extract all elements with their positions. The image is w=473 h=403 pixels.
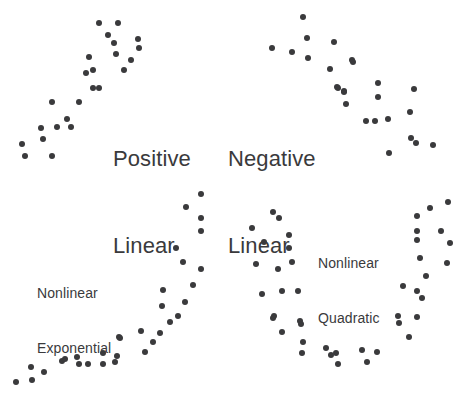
scatter-point bbox=[430, 142, 436, 148]
scatter-point bbox=[374, 349, 380, 355]
scatter-point bbox=[414, 213, 420, 219]
scatter-point bbox=[59, 358, 65, 364]
scatter-point bbox=[341, 88, 347, 94]
scatter-point bbox=[395, 313, 401, 319]
scatter-point bbox=[115, 20, 121, 26]
scatter-point bbox=[96, 20, 102, 26]
scatter-point bbox=[167, 319, 173, 325]
scatter-point bbox=[419, 295, 425, 301]
scatter-point bbox=[350, 59, 356, 65]
scatter-point bbox=[396, 320, 402, 326]
scatter-point bbox=[198, 215, 204, 221]
scatter-point bbox=[175, 313, 181, 319]
scatter-point bbox=[83, 70, 89, 76]
scatter-point bbox=[271, 313, 277, 319]
scatter-point bbox=[111, 40, 117, 46]
scatter-point bbox=[136, 45, 142, 51]
scatter-point bbox=[128, 57, 134, 63]
scatter-point bbox=[364, 359, 370, 365]
scatter-point bbox=[253, 261, 259, 267]
scatter-point bbox=[114, 353, 120, 359]
scatter-point bbox=[414, 314, 420, 320]
scatter-point bbox=[100, 350, 106, 356]
scatter-point bbox=[343, 101, 349, 107]
scatter-point bbox=[76, 99, 82, 105]
scatter-point bbox=[54, 124, 60, 130]
scatter-point bbox=[142, 349, 148, 355]
scatter-point bbox=[28, 364, 34, 370]
scatter-point bbox=[279, 329, 285, 335]
scatter-point bbox=[74, 354, 80, 360]
scatter-point bbox=[105, 32, 111, 38]
scatter-point bbox=[286, 245, 292, 251]
scatter-point bbox=[135, 36, 141, 42]
scatter-point bbox=[183, 204, 189, 210]
scatter-point bbox=[270, 209, 276, 215]
scatter-point bbox=[198, 266, 204, 272]
scatter-point bbox=[182, 299, 188, 305]
scatter-point bbox=[29, 377, 35, 383]
scatter-point bbox=[100, 361, 106, 367]
scatter-point bbox=[334, 84, 340, 90]
scatter-point bbox=[289, 259, 295, 265]
panel-label-line2: Linear bbox=[228, 231, 316, 260]
panel-label-nonlinear-quadratic: Nonlinear Quadratic bbox=[318, 217, 380, 365]
scatter-point bbox=[305, 55, 311, 61]
scatter-point bbox=[300, 339, 306, 345]
scatter-point bbox=[427, 205, 433, 211]
scatter-point bbox=[289, 49, 295, 55]
scatter-point bbox=[117, 335, 123, 341]
scatter-point bbox=[372, 118, 378, 124]
scatter-point bbox=[385, 116, 391, 122]
scatter-point bbox=[286, 232, 292, 238]
scatter-point bbox=[323, 345, 329, 351]
scatter-point bbox=[386, 150, 392, 156]
scatter-point bbox=[417, 255, 423, 261]
scatter-point bbox=[400, 283, 406, 289]
scatter-point bbox=[414, 228, 420, 234]
scatter-point bbox=[333, 350, 339, 356]
scatter-point bbox=[414, 237, 420, 243]
scatter-point bbox=[359, 347, 365, 353]
scatter-point bbox=[406, 334, 412, 340]
scatter-point bbox=[173, 245, 179, 251]
panel-label-nonlinear-exponential: Nonlinear Exponential bbox=[37, 247, 111, 395]
panel-label-line2: Exponential bbox=[37, 339, 111, 357]
scatter-point bbox=[423, 273, 429, 279]
scatter-point bbox=[62, 356, 68, 362]
scatter-point bbox=[22, 153, 28, 159]
scatter-point bbox=[113, 51, 119, 57]
scatter-point bbox=[414, 288, 420, 294]
scatter-point bbox=[349, 57, 355, 63]
panel-negative-linear: Negative Linear bbox=[0, 0, 473, 403]
scatter-point bbox=[249, 225, 255, 231]
scatter-point bbox=[19, 141, 25, 147]
scatter-point bbox=[375, 94, 381, 100]
scatter-point bbox=[85, 361, 91, 367]
scatter-point bbox=[438, 228, 444, 234]
panel-positive-linear: Positive Linear bbox=[0, 0, 473, 403]
scatter-point bbox=[40, 136, 46, 142]
scatter-point bbox=[299, 350, 305, 356]
panel-label-positive-linear: Positive Linear bbox=[113, 86, 191, 318]
scatter-point bbox=[198, 228, 204, 234]
scatter-point bbox=[198, 191, 204, 197]
scatter-point bbox=[68, 124, 74, 130]
scatter-point bbox=[298, 321, 304, 327]
scatter-point bbox=[159, 303, 165, 309]
scatter-point bbox=[13, 379, 19, 385]
scatter-point bbox=[96, 85, 102, 91]
scatter-point bbox=[275, 266, 281, 272]
scatter-point bbox=[138, 328, 144, 334]
scatter-point bbox=[297, 318, 303, 324]
scatter-point bbox=[335, 361, 341, 367]
scatter-point bbox=[407, 109, 413, 115]
scatter-point bbox=[38, 125, 44, 131]
scatter-point bbox=[295, 288, 301, 294]
scatter-point bbox=[413, 140, 419, 146]
panel-nonlinear-exponential: Nonlinear Exponential bbox=[0, 0, 473, 403]
panel-label-negative-linear: Negative Linear bbox=[228, 86, 316, 318]
scatter-point bbox=[259, 291, 265, 297]
scatter-point bbox=[331, 39, 337, 45]
scatter-point bbox=[304, 35, 310, 41]
